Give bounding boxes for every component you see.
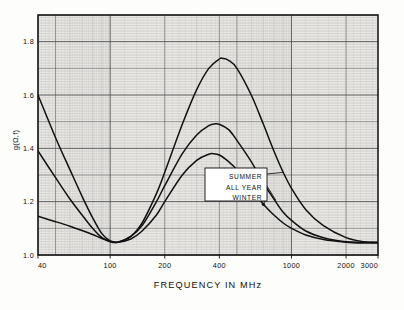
x-tick-label: 200 [158, 261, 171, 270]
legend-item-winter: WINTER [232, 194, 262, 201]
x-tick-label: 1000 [283, 261, 300, 270]
legend-box: SUMMER ALL YEAR WINTER [205, 168, 267, 201]
y-tick-label: 1.8 [23, 37, 34, 46]
legend-item-all-year: ALL YEAR [226, 184, 262, 191]
x-tick-label: 100 [104, 261, 117, 270]
chart-svg: SUMMER ALL YEAR WINTER 1.01.21.41.61.8 4… [0, 0, 404, 310]
y-axis-title: g(Ω,f) [11, 130, 20, 151]
x-tick-label: 3000 [361, 261, 378, 270]
x-tick-label: 2000 [337, 261, 354, 270]
semilog-chart: SUMMER ALL YEAR WINTER 1.01.21.41.61.8 4… [0, 0, 404, 310]
y-tick-label: 1.6 [23, 91, 34, 100]
x-tick-label: 400 [213, 261, 226, 270]
y-tick-label: 1.0 [23, 251, 34, 260]
y-tick-label: 1.4 [23, 144, 34, 153]
y-tick-label: 1.2 [23, 197, 34, 206]
figure-root: SUMMER ALL YEAR WINTER 1.01.21.41.61.8 4… [0, 0, 404, 310]
legend-item-summer: SUMMER [229, 173, 262, 180]
x-tick-label: 40 [38, 261, 47, 270]
x-axis-title: FREQUENCY IN MHz [154, 280, 262, 290]
